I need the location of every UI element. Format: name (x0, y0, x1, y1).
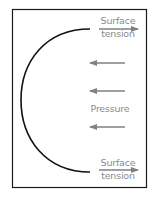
surface-tension-bottom-line2: tension (96, 171, 140, 181)
surface-tension-top-line1: Surface (96, 16, 140, 26)
meniscus-curve (21, 29, 90, 172)
surface-tension-label-bottom: Surface tension (96, 158, 140, 181)
surface-tension-label-top: Surface tension (96, 16, 140, 39)
surface-tension-top-line2: tension (96, 29, 140, 39)
surface-tension-bottom-line1: Surface (96, 158, 140, 168)
pressure-label: Pressure (88, 104, 132, 114)
